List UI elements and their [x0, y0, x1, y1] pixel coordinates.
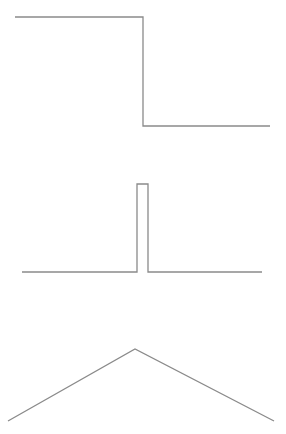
pulse-waveform [22, 184, 262, 272]
waveform-diagram [0, 0, 286, 434]
triangle-waveform [8, 349, 274, 421]
step-waveform [15, 17, 270, 126]
diagram-svg [0, 0, 286, 434]
